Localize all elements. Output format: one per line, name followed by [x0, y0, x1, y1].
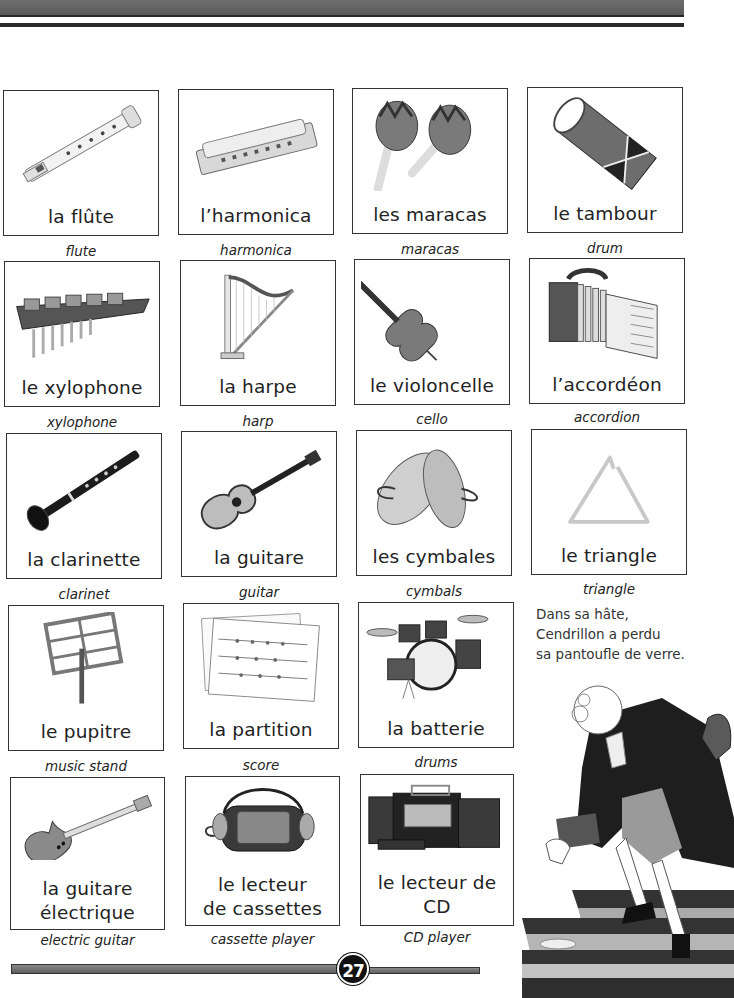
english-name: electric guitar [10, 932, 165, 948]
english-name: triangle [531, 581, 687, 597]
accordion-icon [536, 265, 678, 361]
card-xylophone: le xylophone [4, 261, 160, 407]
card-accordion: l’accordéon [529, 258, 685, 404]
card-cymbals: les cymbales [356, 430, 512, 576]
english-name: maracas [352, 241, 508, 257]
french-name: l’harmonica [179, 204, 333, 228]
clarinet-icon [13, 440, 155, 536]
cello-icon [361, 266, 503, 362]
card-cello: le violoncelle [354, 259, 510, 405]
drum-kit-icon [365, 609, 507, 705]
prince-on-stairs-illustration [522, 668, 734, 998]
story-line: Dans sa hâte, [536, 604, 685, 624]
card-triangle: le triangle [531, 429, 687, 575]
drum-icon [534, 94, 676, 190]
electric-guitar-icon [17, 784, 158, 860]
french-name: la clarinette [7, 548, 161, 572]
english-name: flute [3, 243, 159, 259]
cymbals-icon [363, 437, 505, 533]
story-line: sa pantoufle de verre. [536, 644, 685, 664]
card-score: la partition [183, 603, 339, 749]
french-name: les maracas [353, 203, 507, 227]
story-line: Cendrillon a perdu [536, 624, 685, 644]
french-name: l’accordéon [530, 373, 684, 397]
card-music-stand: le pupitre [8, 605, 164, 751]
english-name: guitar [181, 584, 337, 600]
french-name-line1: la guitare [11, 877, 164, 901]
cd-player-icon [367, 781, 507, 867]
card-electric-guitar: la guitare électrique [10, 777, 165, 930]
footer-bar-right [364, 967, 480, 974]
french-name: la harpe [181, 375, 335, 399]
french-name: le pupitre [9, 720, 163, 744]
english-name: score [183, 757, 339, 773]
card-harmonica: l’harmonica [178, 89, 334, 235]
english-name: drum [527, 240, 683, 256]
triangle-icon [538, 436, 680, 532]
french-name: le violoncelle [355, 374, 509, 398]
french-name: la batterie [359, 717, 513, 741]
harmonica-icon [185, 96, 327, 192]
score-icon [190, 610, 332, 706]
harp-icon [187, 267, 329, 363]
english-name: harp [180, 413, 336, 429]
english-name: cassette player [185, 931, 340, 947]
french-name-line2: électrique [11, 901, 164, 925]
story-caption: Dans sa hâte, Cendrillon a perdu sa pant… [536, 604, 685, 664]
english-name: drums [358, 754, 514, 770]
english-name: cymbals [356, 583, 512, 599]
english-name: cello [354, 411, 510, 427]
french-name: les cymbales [357, 545, 511, 569]
card-cd-player: le lecteur de CD [360, 774, 514, 926]
guitar-icon [188, 438, 330, 534]
card-drum: le tambour [527, 87, 683, 233]
footer-bar-left [11, 964, 341, 974]
card-flute: la flûte [3, 90, 159, 236]
french-name: la partition [184, 718, 338, 742]
card-cassette-player: le lecteur de cassettes [185, 776, 340, 926]
french-name: le triangle [532, 544, 686, 568]
english-name: clarinet [6, 586, 162, 602]
english-name: music stand [8, 758, 164, 774]
maracas-icon [359, 95, 501, 191]
card-harp: la harpe [180, 260, 336, 406]
french-name-line2: de cassettes [186, 897, 339, 921]
french-name-line1: le lecteur [186, 873, 339, 897]
french-name: le lecteur de CD [361, 871, 513, 919]
card-clarinet: la clarinette [6, 433, 162, 579]
card-drum-kit: la batterie [358, 602, 514, 748]
xylophone-icon [11, 268, 153, 364]
card-maracas: les maracas [352, 88, 508, 234]
music-stand-icon [15, 612, 157, 708]
page-number: 27 [337, 953, 369, 985]
header-rule [0, 23, 684, 27]
card-guitar: la guitare [181, 431, 337, 577]
english-name: CD player [360, 929, 514, 945]
french-name: la guitare [182, 546, 336, 570]
glass-slipper [540, 939, 576, 949]
english-name: accordion [529, 409, 685, 425]
french-name: le xylophone [5, 376, 159, 400]
french-name: le tambour [528, 202, 682, 226]
flute-icon [10, 97, 152, 193]
english-name: xylophone [4, 414, 160, 430]
english-name: harmonica [178, 242, 334, 258]
french-name: la flûte [4, 205, 158, 229]
header-band [0, 0, 684, 17]
cassette-player-icon [192, 783, 333, 859]
